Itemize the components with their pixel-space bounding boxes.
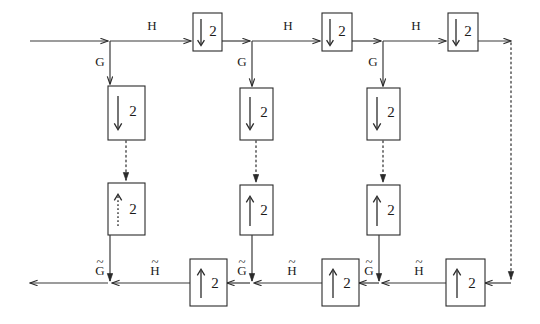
svg-text:~: ~ — [96, 254, 103, 269]
downsampler-box-branch-1: 2 — [108, 86, 145, 140]
downsampler-box-top-2: 2 — [322, 13, 352, 51]
label-h-2: H — [283, 18, 292, 33]
upsampler-box-branch-1-rect — [108, 183, 145, 235]
downsampler-top-2-label: 2 — [338, 23, 346, 39]
downsampler-box-branch-3-rect — [367, 88, 400, 140]
upsampler-box-bottom-1: 2 — [190, 259, 227, 306]
downsampler-box-branch-2: 2 — [240, 88, 273, 140]
downsampler-box-top-2-rect — [322, 13, 352, 51]
downsampler-branch-2-label: 2 — [260, 104, 268, 120]
upsampler-box-bottom-1-rect — [190, 259, 227, 306]
upsampler-bottom-3-label: 2 — [468, 275, 476, 291]
label-gtilde-1: G ~ — [95, 254, 104, 278]
label-htilde-3: H ~ — [414, 254, 423, 278]
label-h-3: H — [411, 18, 420, 33]
downsampler-box-branch-2-rect — [240, 88, 273, 140]
top-analysis-row: H H H 2 2 — [30, 13, 511, 51]
downsampler-box-top-1-rect — [193, 13, 222, 51]
branch-column-2: G 2 2 G ~ — [237, 41, 273, 281]
downsampler-branch-3-label: 2 — [387, 104, 395, 120]
label-htilde-2: H ~ — [287, 254, 296, 278]
upsampler-box-bottom-3: 2 — [446, 259, 485, 306]
label-h-1: H — [147, 18, 156, 33]
svg-text:~: ~ — [151, 254, 158, 269]
downsampler-top-3-label: 2 — [464, 23, 472, 39]
svg-text:~: ~ — [415, 254, 422, 269]
upsampler-box-branch-2-rect — [240, 185, 273, 235]
label-g-1: G — [95, 54, 104, 69]
upsampler-branch-3-label: 2 — [387, 202, 395, 218]
downsampler-box-branch-3: 2 — [367, 88, 400, 140]
downsampler-top-1-label: 2 — [209, 23, 217, 39]
downsampler-box-top-3-rect — [448, 13, 478, 51]
filter-bank-diagram: H H H 2 2 — [0, 0, 540, 324]
downsampler-box-top-3: 2 — [448, 13, 478, 51]
label-gtilde-2: G ~ — [237, 254, 246, 278]
svg-text:~: ~ — [238, 254, 245, 269]
upsampler-box-bottom-2-rect — [322, 259, 359, 306]
upsampler-branch-2-label: 2 — [260, 202, 268, 218]
downsampler-box-branch-1-rect — [108, 86, 145, 140]
diagram-canvas: H H H 2 2 — [0, 0, 540, 324]
upsampler-box-branch-1: 2 — [108, 183, 145, 235]
upsampler-box-bottom-2: 2 — [322, 259, 359, 306]
upsampler-bottom-2-label: 2 — [343, 275, 351, 291]
label-g-2: G — [237, 54, 246, 69]
branch-column-3: G 2 2 G ~ — [364, 41, 400, 281]
upsampler-box-branch-3: 2 — [367, 185, 400, 235]
label-htilde-1: H ~ — [150, 254, 159, 278]
upsampler-box-bottom-3-rect — [446, 259, 485, 306]
upsampler-bottom-1-label: 2 — [211, 275, 219, 291]
svg-text:~: ~ — [288, 254, 295, 269]
branch-column-1: G 2 2 — [95, 41, 145, 281]
label-g-3: G — [368, 54, 377, 69]
upsampler-box-branch-3-rect — [367, 185, 400, 235]
downsampler-box-top-1: 2 — [193, 13, 222, 51]
downsampler-branch-1-label: 2 — [129, 103, 137, 119]
upsampler-box-branch-2: 2 — [240, 185, 273, 235]
upsampler-branch-1-label: 2 — [129, 201, 137, 217]
svg-text:~: ~ — [365, 254, 372, 269]
label-gtilde-3: G ~ — [364, 254, 373, 278]
